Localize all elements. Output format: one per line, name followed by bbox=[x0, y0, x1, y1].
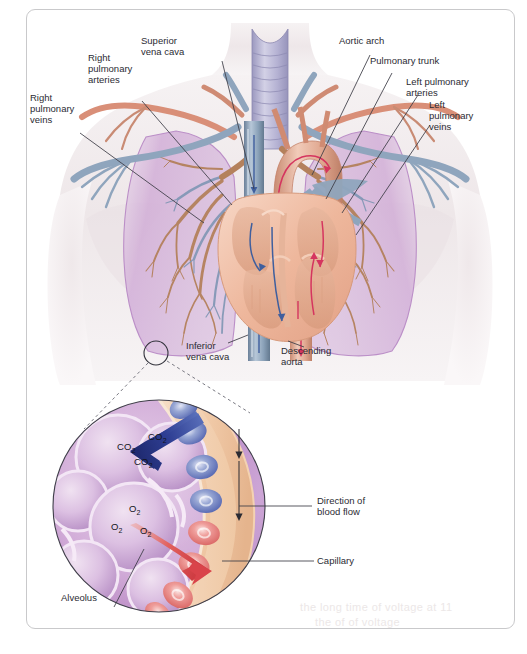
gas-label-o2-3: O2 bbox=[140, 525, 152, 538]
label-capillary: Capillary bbox=[317, 555, 354, 566]
figure-page: the long time of voltage at 11 the of of… bbox=[0, 0, 527, 654]
label-left-pulmonary-arteries: Left pulmonary arteries bbox=[406, 76, 469, 98]
label-alveolus: Alveolus bbox=[61, 592, 97, 603]
label-pulmonary-trunk: Pulmonary trunk bbox=[370, 55, 439, 66]
label-right-pulmonary-arteries: Right pulmonary arteries bbox=[88, 52, 132, 85]
label-direction-of-blood-flow: Direction of blood flow bbox=[317, 495, 365, 517]
gas-label-co2-1: CO2 bbox=[117, 441, 136, 454]
gas-label-co2-2: CO2 bbox=[148, 431, 167, 444]
gas-label-co2-3: CO2 bbox=[134, 456, 153, 469]
label-aortic-arch: Aortic arch bbox=[339, 35, 384, 46]
label-descending-aorta: Descending aorta bbox=[281, 345, 331, 367]
label-superior-vena-cava: Superior vena cava bbox=[141, 35, 184, 57]
label-right-pulmonary-veins: Right pulmonary veins bbox=[30, 92, 74, 125]
gas-label-o2-1: O2 bbox=[129, 503, 141, 516]
gas-label-o2-2: O2 bbox=[111, 521, 123, 534]
label-left-pulmonary-veins: Left pulmonary veins bbox=[429, 99, 473, 132]
label-inferior-vena-cava: Inferior vena cava bbox=[186, 340, 229, 362]
